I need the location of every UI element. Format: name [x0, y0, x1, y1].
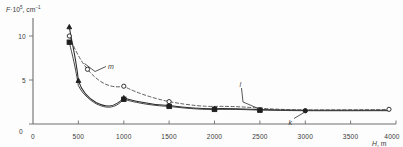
y-axis-label: F·105, cm−1	[6, 5, 41, 13]
series-k-markers	[67, 40, 307, 113]
x-tick-label-1000: 1000	[116, 133, 132, 140]
x-tick-label-4000: 4000	[384, 133, 400, 140]
x-tick-label-500: 500	[73, 133, 85, 140]
y-tick-labels: 0 5 10	[18, 33, 26, 136]
series-m-line	[69, 36, 387, 110]
y-tick-label-10: 10	[18, 33, 26, 40]
series-k-line	[69, 42, 389, 111]
annotation-m-label: m	[108, 63, 114, 70]
x-axis-label: H, m	[372, 140, 387, 147]
x-tick-label-3000: 3000	[298, 133, 314, 140]
series-l-line	[69, 27, 389, 110]
x-tick-label-2500: 2500	[252, 133, 268, 140]
x-tick-label-3500: 3500	[343, 133, 359, 140]
y-tick-label-0: 0	[19, 128, 23, 135]
chart-svg: F·105, cm−1 0 5 10 0 500	[0, 0, 403, 147]
x-tick-label-0: 0	[31, 133, 35, 140]
annotation-l-label: l	[240, 81, 242, 88]
y-tick-label-5: 5	[22, 77, 26, 84]
x-tick-labels: 0 500 1000 1500 2000 2500 3000 3500 4000	[31, 133, 400, 140]
annotation-k-leader	[294, 113, 304, 119]
annotation-k-label: k	[289, 119, 293, 126]
series-l-markers	[67, 24, 262, 112]
annotation-l-leader	[242, 88, 260, 109]
y-tick-marks	[29, 36, 33, 124]
figure-container: F·105, cm−1 0 5 10 0 500	[0, 0, 403, 147]
x-tick-label-2000: 2000	[207, 133, 223, 140]
x-tick-label-1500: 1500	[161, 133, 177, 140]
series-m-markers	[67, 34, 391, 112]
